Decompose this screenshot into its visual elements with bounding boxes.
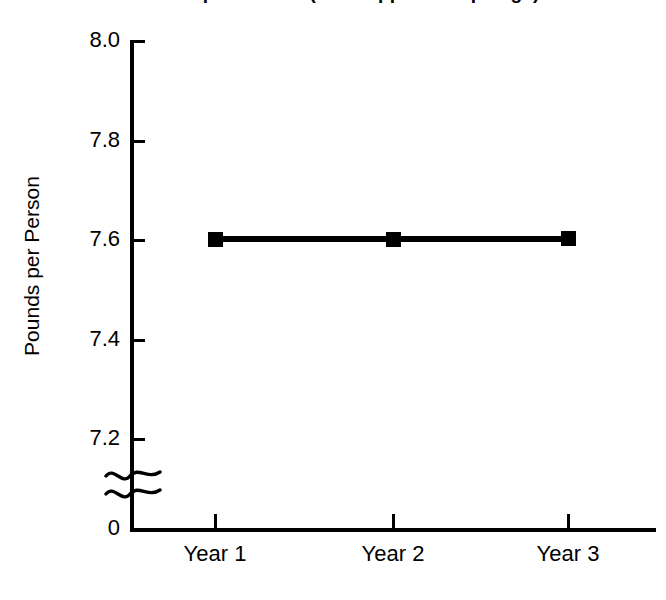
y-axis-line <box>130 40 134 532</box>
y-tick-mark <box>130 438 145 441</box>
x-tick-mark <box>392 514 395 529</box>
axis-break-icon <box>104 462 162 510</box>
x-tick-mark <box>214 514 217 529</box>
chart-figure: Pounds per Person (title clipped at top … <box>0 0 666 600</box>
data-point-marker[interactable] <box>208 232 223 247</box>
x-tick-label: Year 1 <box>145 543 285 565</box>
y-tick-label: 7.2 <box>40 427 120 449</box>
x-tick-label: Year 2 <box>323 543 463 565</box>
chart-title: Pounds per Person (title clipped at top … <box>0 0 666 4</box>
data-point-marker[interactable] <box>386 232 401 247</box>
y-tick-mark <box>130 40 145 43</box>
x-tick-mark <box>567 514 570 529</box>
y-tick-mark <box>130 239 145 242</box>
y-axis-origin-label: 0 <box>48 517 120 539</box>
y-axis-title: Pounds per Person <box>20 136 44 396</box>
y-tick-mark <box>130 339 145 342</box>
y-tick-label: 7.6 <box>40 228 120 250</box>
y-tick-label: 8.0 <box>40 29 120 51</box>
y-tick-label: 7.4 <box>40 328 120 350</box>
x-tick-label: Year 3 <box>498 543 638 565</box>
y-tick-label: 7.8 <box>40 129 120 151</box>
data-point-marker[interactable] <box>561 231 576 246</box>
y-tick-mark <box>130 140 145 143</box>
